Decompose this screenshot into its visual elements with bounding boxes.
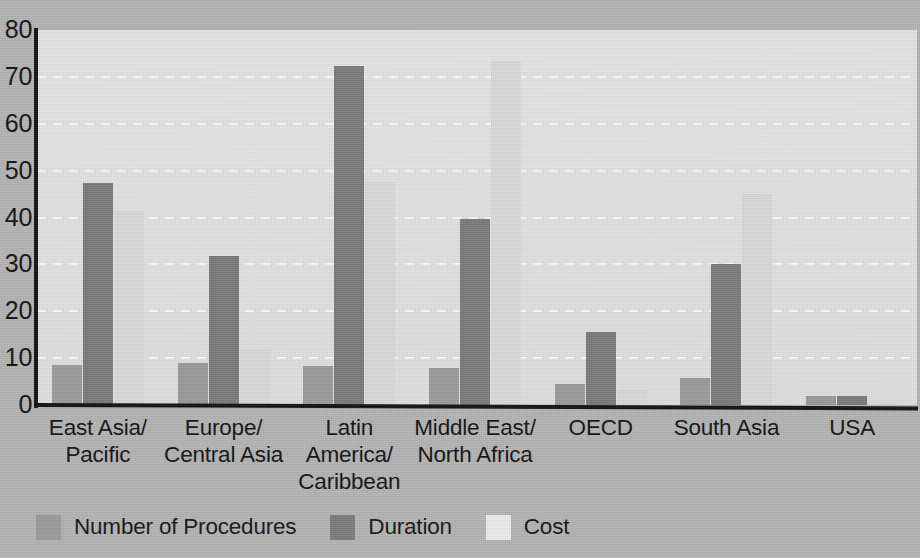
bar [240,349,270,405]
bar [837,396,867,405]
gridline [37,170,917,172]
legend-item[interactable]: Number of Procedures [36,515,296,540]
bar [711,264,741,405]
y-axis-tick-label: 80 [0,17,32,42]
legend-item[interactable]: Duration [330,515,451,540]
legend-swatch-icon [36,515,61,540]
bar [365,182,395,405]
plot-area [37,30,917,405]
bar [617,390,647,405]
y-axis-tick-label: 20 [0,298,32,323]
y-axis-line [34,28,38,408]
bar [868,402,898,405]
bar [334,66,364,405]
bar-chart: 01020304050607080 East Asia/PacificEurop… [0,0,920,558]
bar [209,256,239,405]
x-axis-category-label: USA [757,414,920,441]
bar [491,61,521,405]
bar [429,368,459,405]
y-axis-tick-labels: 01020304050607080 [0,0,32,440]
bar [555,384,585,405]
gridline [37,217,917,219]
bar [680,378,710,405]
legend-label: Cost [524,516,569,539]
x-axis-category-labels: East Asia/PacificEurope/Central AsiaLati… [37,414,917,499]
legend-item[interactable]: Cost [486,515,569,540]
legend-swatch-icon [330,515,355,540]
bar [806,396,836,405]
bar [178,363,208,405]
y-axis-tick-label: 40 [0,205,32,230]
y-axis-tick-label: 50 [0,158,32,183]
y-axis-tick-label: 30 [0,251,32,276]
legend-label: Duration [368,516,451,539]
legend-swatch-icon [486,515,511,540]
bar [460,219,490,405]
gridline [37,123,917,125]
gridline [37,76,917,78]
bar [742,194,772,405]
bar [586,332,616,405]
y-axis-tick-label: 70 [0,64,32,89]
bar [83,183,113,405]
bar [52,365,82,405]
y-axis-tick-label: 10 [0,345,32,370]
chart-legend: Number of ProceduresDurationCost [36,510,603,544]
bar [303,366,333,405]
legend-label: Number of Procedures [74,516,296,539]
y-axis-tick-label: 60 [0,111,32,136]
bar [114,211,144,405]
